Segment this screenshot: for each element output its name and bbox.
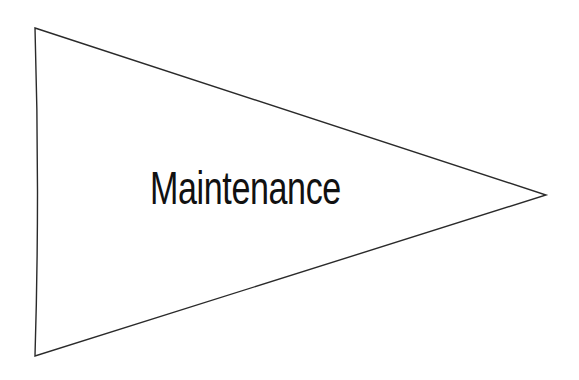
diagram-canvas: Maintenance — [0, 0, 579, 380]
shape-label: Maintenance — [150, 163, 308, 213]
